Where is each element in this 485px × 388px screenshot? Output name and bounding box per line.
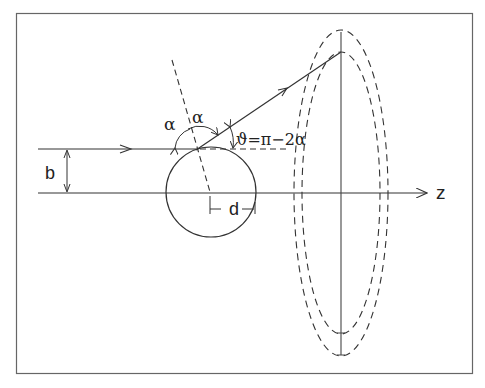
sphere: [166, 147, 256, 237]
impact-parameter-label: b: [45, 164, 55, 182]
distance-label: d: [229, 200, 239, 218]
z-axis-label: z: [436, 183, 446, 202]
alpha-left-arc: [175, 129, 190, 148]
alpha-right-label: α: [192, 109, 203, 126]
scattering-angle-label: ϑ=π−2α: [236, 132, 306, 148]
theta-arc: [230, 127, 233, 148]
alpha-left-label: α: [164, 116, 175, 133]
scattering-diagram: [0, 0, 485, 388]
surface-normal-dashed: [172, 60, 210, 192]
